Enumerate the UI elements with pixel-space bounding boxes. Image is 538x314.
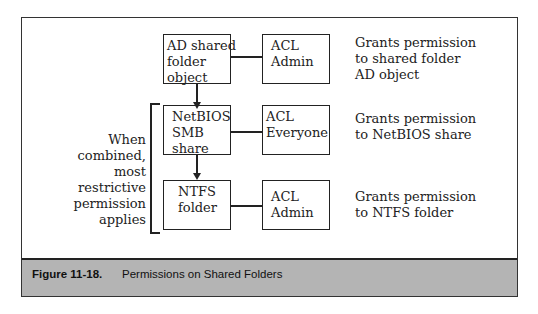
bracket-bottom bbox=[150, 232, 160, 234]
node-text: share bbox=[172, 141, 227, 157]
side-note-text: combined, bbox=[62, 148, 146, 164]
description-text: to NTFS folder bbox=[355, 205, 476, 221]
description-text: to NetBIOS share bbox=[355, 127, 476, 143]
node-text: folder bbox=[167, 54, 227, 70]
node-acl-admin-2: ACL Admin bbox=[262, 180, 330, 230]
node-text: SMB bbox=[172, 125, 227, 141]
description-text: Grants permission bbox=[355, 189, 476, 205]
node-text: ACL bbox=[271, 189, 326, 205]
node-acl-admin-1: ACL Admin bbox=[262, 34, 330, 84]
description-text: to shared folder bbox=[355, 51, 476, 67]
description-text: AD object bbox=[355, 67, 476, 83]
description-1: Grants permission to shared folder AD ob… bbox=[355, 35, 476, 83]
arrow-shaft bbox=[196, 155, 198, 174]
connector-line bbox=[231, 205, 262, 207]
arrow-down-icon bbox=[193, 173, 201, 180]
description-text: Grants permission bbox=[355, 35, 476, 51]
side-note-text: applies bbox=[62, 212, 146, 228]
description-3: Grants permission to NTFS folder bbox=[355, 189, 476, 221]
side-note-text: permission bbox=[62, 196, 146, 212]
arrow-shaft bbox=[196, 84, 198, 103]
node-text: ACL bbox=[271, 38, 326, 54]
connector-line bbox=[231, 56, 262, 58]
connector-line bbox=[231, 131, 262, 133]
figure-number: Figure 11-18. bbox=[32, 268, 102, 280]
node-text: NetBIOS bbox=[172, 109, 227, 125]
side-note-text: When bbox=[62, 132, 146, 148]
node-text: Admin bbox=[271, 205, 326, 221]
node-ad-shared-folder-object: AD shared folder object bbox=[163, 34, 231, 84]
node-text: NTFS bbox=[178, 184, 227, 200]
node-netbios-smb-share: NetBIOS SMB share bbox=[163, 105, 231, 155]
figure-title: Permissions on Shared Folders bbox=[122, 268, 282, 280]
node-text: AD shared bbox=[167, 38, 227, 54]
node-text: Everyone bbox=[266, 125, 326, 141]
figure-frame: AD shared folder object ACL Admin Grants… bbox=[21, 17, 518, 297]
description-text: Grants permission bbox=[355, 111, 476, 127]
node-text: ACL bbox=[266, 109, 326, 125]
side-note-text: most bbox=[62, 164, 146, 180]
description-2: Grants permission to NetBIOS share bbox=[355, 111, 476, 143]
bracket-top bbox=[150, 103, 160, 105]
bracket-spine bbox=[150, 103, 152, 233]
side-note: When combined, most restrictive permissi… bbox=[62, 132, 146, 228]
side-note-text: restrictive bbox=[62, 180, 146, 196]
node-text: folder bbox=[178, 200, 227, 216]
node-text: Admin bbox=[271, 54, 326, 70]
figure-caption-bar: Figure 11-18. Permissions on Shared Fold… bbox=[22, 258, 517, 296]
node-ntfs-folder: NTFS folder bbox=[163, 180, 231, 230]
node-acl-everyone: ACL Everyone bbox=[262, 105, 330, 155]
